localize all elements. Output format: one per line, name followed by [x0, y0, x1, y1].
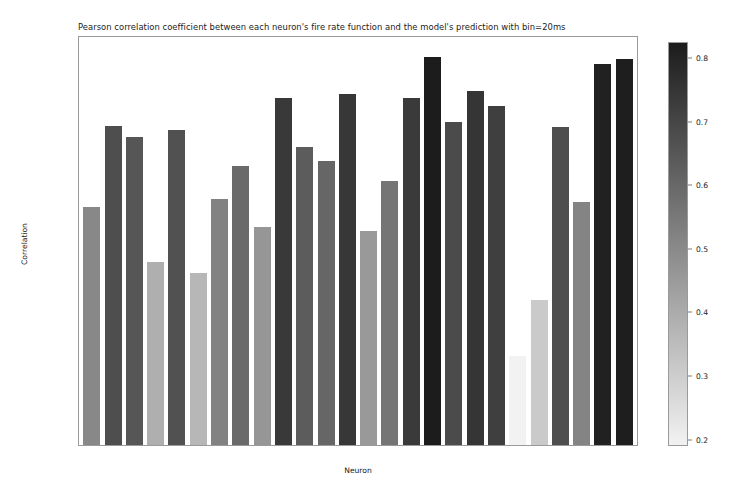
bar-neuron-15	[403, 98, 420, 445]
colorbar-tick-label: 0.5	[696, 244, 708, 253]
y-tick-mark	[78, 209, 79, 210]
colorbar-tick-mark	[688, 121, 692, 122]
bar-neuron-6	[211, 199, 228, 445]
colorbar-tick-mark	[688, 248, 692, 249]
x-tick-mark	[411, 445, 412, 446]
bar-neuron-2	[126, 137, 143, 445]
colorbar-tick-label: 0.8	[696, 53, 708, 62]
colorbar-tick-label: 0.6	[696, 181, 708, 190]
bar-neuron-10	[296, 147, 313, 445]
bar-neuron-24	[594, 64, 611, 445]
colorbar-tick-mark	[688, 312, 692, 313]
bar-neuron-12	[339, 94, 356, 445]
y-tick-mark	[78, 68, 79, 69]
colorbar-tick-mark	[688, 185, 692, 186]
bar-neuron-4	[168, 130, 185, 445]
chart-title: Pearson correlation coefficient between …	[78, 22, 638, 32]
colorbar-tick-mark	[688, 376, 692, 377]
y-tick-label: 0.0	[78, 441, 79, 447]
bar-neuron-8	[254, 227, 271, 445]
x-tick-mark	[517, 445, 518, 446]
y-tick-mark	[78, 162, 79, 163]
colorbar-gradient	[668, 42, 688, 446]
bar-neuron-17	[445, 122, 462, 445]
colorbar-tick-mark	[688, 57, 692, 58]
bar-neuron-16	[424, 57, 441, 445]
colorbar-tick-label: 0.4	[696, 308, 708, 317]
bar-neuron-11	[318, 161, 335, 445]
bar-neuron-19	[488, 106, 505, 445]
y-tick-mark	[78, 256, 79, 257]
bar-neuron-18	[467, 91, 484, 445]
y-tick-mark	[78, 303, 79, 304]
y-tick-mark	[78, 397, 79, 398]
bar-neuron-5	[190, 273, 207, 445]
x-tick-mark	[304, 445, 305, 446]
y-tick-mark	[78, 350, 79, 351]
figure-canvas: Pearson correlation coefficient between …	[0, 0, 746, 488]
colorbar: 0.20.30.40.50.60.70.8	[668, 42, 688, 446]
x-tick-mark	[624, 445, 625, 446]
bar-neuron-1	[105, 126, 122, 445]
colorbar-tick-label: 0.3	[696, 372, 708, 381]
plot-area: 0.00.10.20.30.40.50.60.70.80510152025	[78, 36, 638, 446]
y-tick-mark	[78, 445, 79, 446]
bar-neuron-0	[83, 207, 100, 445]
bar-neuron-13	[360, 231, 377, 445]
x-tick-mark	[91, 445, 92, 446]
bar-neuron-3	[147, 262, 164, 445]
bars-layer	[79, 37, 637, 445]
colorbar-tick-label: 0.2	[696, 435, 708, 444]
bar-neuron-7	[232, 166, 249, 445]
y-tick-mark	[78, 115, 79, 116]
colorbar-tick-mark	[688, 439, 692, 440]
x-axis-label: Neuron	[344, 466, 372, 475]
bar-neuron-9	[275, 98, 292, 445]
bar-neuron-25	[616, 59, 633, 445]
bar-neuron-22	[552, 127, 569, 445]
colorbar-tick-label: 0.7	[696, 117, 708, 126]
bar-neuron-21	[531, 300, 548, 445]
bar-neuron-23	[573, 202, 590, 445]
bar-neuron-20	[509, 356, 526, 445]
y-axis-label: Correlation	[20, 223, 29, 265]
bar-neuron-14	[381, 181, 398, 445]
x-tick-mark	[198, 445, 199, 446]
